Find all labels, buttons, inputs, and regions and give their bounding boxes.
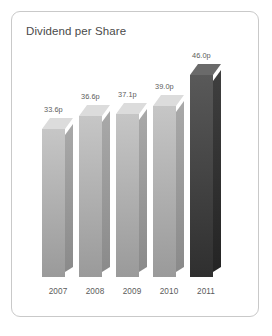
bar-top-face xyxy=(42,118,73,129)
category-label-2011: 2011 xyxy=(189,287,223,296)
bar-front-face xyxy=(116,114,139,277)
category-label-2008: 2008 xyxy=(78,287,112,296)
bar-side-face xyxy=(176,101,184,272)
value-label-2009: 37.1p xyxy=(118,90,137,99)
value-label-2010: 39.0p xyxy=(155,82,174,91)
bar-side-face xyxy=(65,124,73,272)
value-label-2008: 36.6p xyxy=(81,92,100,101)
bar-top-face xyxy=(79,105,110,116)
bar-2010 xyxy=(153,95,184,277)
category-label-2010: 2010 xyxy=(152,287,186,296)
bar-side-face xyxy=(213,70,221,272)
bar-top-face xyxy=(153,95,184,106)
category-label-2009: 2009 xyxy=(115,287,149,296)
category-label-2007: 2007 xyxy=(41,287,75,296)
bar-top-face xyxy=(190,64,221,75)
value-label-2007: 33.6p xyxy=(44,105,63,114)
bar-2008 xyxy=(79,105,110,277)
bar-front-face xyxy=(153,106,176,277)
bar-front-face xyxy=(79,116,102,277)
bar-front-face xyxy=(190,75,213,277)
value-label-2011: 46.0p xyxy=(192,51,211,60)
bar-top-face xyxy=(116,103,147,114)
bar-side-face xyxy=(139,109,147,272)
bar-front-face xyxy=(42,129,65,277)
bar-chart-plot-area: 33.6p200736.6p200837.1p200939.0p201046.0… xyxy=(12,12,260,318)
chart-card: Dividend per Share 33.6p200736.6p200837.… xyxy=(11,11,259,317)
bar-2009 xyxy=(116,103,147,277)
bar-2011 xyxy=(190,64,221,277)
bar-2007 xyxy=(42,118,73,277)
bar-side-face xyxy=(102,111,110,272)
